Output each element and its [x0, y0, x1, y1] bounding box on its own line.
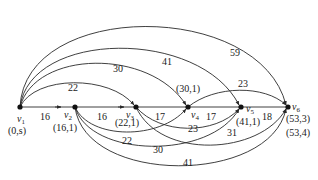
- node-label-v3: (22,1): [115, 117, 139, 129]
- node-label-v5: (41,1): [236, 116, 260, 128]
- node-name-v5: v5: [246, 103, 254, 116]
- weight-label: 17: [155, 111, 165, 122]
- weight-label: 23: [188, 123, 198, 134]
- node-label-v2: (16,1): [53, 122, 77, 134]
- edge-v1-v5: [20, 48, 239, 107]
- weight-label: 41: [162, 56, 172, 67]
- node-label-v4: (30,1): [176, 83, 200, 95]
- node-v2: [72, 104, 77, 109]
- node-v1: [17, 104, 22, 109]
- node-label-v6: (53,3): [286, 113, 310, 125]
- weight-label: 41: [183, 157, 193, 168]
- weight-label: 22: [68, 82, 78, 93]
- node-v4: [185, 104, 190, 109]
- node-v6: [285, 104, 290, 109]
- weight-label: 23: [238, 78, 248, 89]
- node-label-v1: (0,s): [8, 125, 26, 137]
- weight-label: 16: [40, 111, 50, 122]
- weight-label: 16: [97, 111, 107, 122]
- edge-v1-v6: [20, 26, 286, 107]
- edge-v1-v4: [20, 63, 186, 107]
- weight-label: 30: [153, 144, 163, 155]
- edge-v4-v6: [188, 90, 286, 107]
- weight-label: 18: [262, 111, 272, 122]
- weight-label: 22: [122, 135, 132, 146]
- weight-label: 31: [227, 127, 237, 138]
- weight-label: 30: [113, 63, 123, 74]
- node-label-v6-alt: (53,4): [286, 127, 310, 139]
- node-v3: [133, 104, 138, 109]
- weight-label: 17: [206, 111, 216, 122]
- node-name-v2: v2: [64, 109, 72, 122]
- node-v5: [238, 104, 243, 109]
- weight-label: 59: [230, 47, 240, 58]
- node-name-v4: v4: [191, 109, 199, 122]
- graph-diagram: 16 16 17 17 18 22 30 41 59 23 22 30 41 2…: [0, 0, 318, 180]
- upper-arcs: [20, 26, 286, 107]
